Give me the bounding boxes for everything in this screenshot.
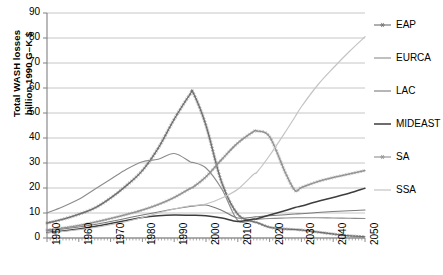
y-tick-label: 80 <box>14 31 40 42</box>
chart-figure: Total WASH losses billion 1990 G–K $ 010… <box>0 0 443 275</box>
series-line-ssa <box>47 37 365 233</box>
legend-label-eap: EAP <box>396 19 416 30</box>
y-tick-label: 0 <box>14 231 40 242</box>
y-tick-label: 90 <box>14 6 40 17</box>
y-tick-label: 70 <box>14 56 40 67</box>
x-tick-label: 1960 <box>83 223 94 245</box>
x-tick-label: 1990 <box>178 223 189 245</box>
x-tick-label: 2050 <box>369 223 380 245</box>
y-tick-label: 40 <box>14 131 40 142</box>
y-tick-label: 10 <box>14 206 40 217</box>
x-tick-label: 1980 <box>146 223 157 245</box>
y-tick-label: 30 <box>14 156 40 167</box>
legend-label-lac: LAC <box>396 85 415 96</box>
series-line-mideast <box>47 188 365 232</box>
legend-label-ssa: SSA <box>396 184 416 195</box>
x-tick-label: 2020 <box>274 223 285 245</box>
x-tick-label: 2010 <box>242 223 253 245</box>
x-tick-label: 1950 <box>51 223 62 245</box>
y-tick-label: 60 <box>14 81 40 92</box>
x-tick-label: 2000 <box>210 223 221 245</box>
y-tick-label: 50 <box>14 106 40 117</box>
x-tick-label: 2040 <box>337 223 348 245</box>
legend-label-eurca: EURCA <box>396 52 431 63</box>
x-tick-label: 1970 <box>115 223 126 245</box>
y-tick-label: 20 <box>14 181 40 192</box>
legend-label-mideast: MIDEAST <box>396 118 440 129</box>
x-tick-label: 2030 <box>305 223 316 245</box>
legend-label-sa: SA <box>396 151 409 162</box>
